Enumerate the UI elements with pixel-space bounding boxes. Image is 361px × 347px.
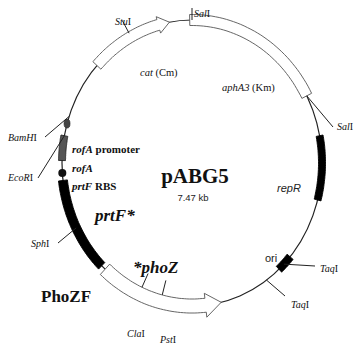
site-claI-label: ClaI xyxy=(127,328,145,339)
site-pstI-tick xyxy=(162,280,166,295)
plasmid-name: pABG5 xyxy=(161,164,229,188)
cat-gene-arrow xyxy=(93,17,169,69)
plasmid-map: pABG5 7.47 kb PhoZF cat (Cm) aphA3 (Km) … xyxy=(0,0,361,347)
site-sphI-label: SphI xyxy=(31,238,49,249)
repR-gene-band xyxy=(314,135,325,201)
construct-label: PhoZF xyxy=(41,287,91,306)
site-stuI-label: StuI xyxy=(115,16,131,27)
site-taqI-lower-leader xyxy=(267,280,285,296)
aphA3-label: aphA3 (Km) xyxy=(222,82,275,94)
site-sphI-leader xyxy=(58,228,76,243)
site-taqI-lower-label: TaqI xyxy=(291,299,309,310)
phoZ-label: *phoZ xyxy=(133,258,178,277)
site-ecoRI-label: EcoRI xyxy=(7,172,33,183)
prtF-rbs-dot xyxy=(58,169,66,177)
site-bamHI-label: BamHI xyxy=(8,132,37,143)
rofA-gene-box xyxy=(59,135,68,161)
rofA-promoter-label: rofA promoter xyxy=(72,143,140,155)
site-salI-right-leader xyxy=(307,96,333,127)
site-taqI-upper-label: TaqI xyxy=(320,263,338,274)
prtF-rbs-label: prtF RBS xyxy=(71,180,116,192)
repR-label: repR xyxy=(277,182,301,194)
site-pstI-label: PstI xyxy=(159,334,176,345)
ori-block xyxy=(276,254,293,272)
prtF-label: prtF* xyxy=(93,206,135,225)
plasmid-size: 7.47 kb xyxy=(177,192,208,203)
rofA-label: rofA xyxy=(72,162,93,174)
cat-label: cat (Cm) xyxy=(140,67,178,79)
site-salI-right-label: SalI xyxy=(337,121,353,132)
ori-label: ori xyxy=(265,252,277,264)
site-salI-top-label: SalI xyxy=(194,8,210,19)
